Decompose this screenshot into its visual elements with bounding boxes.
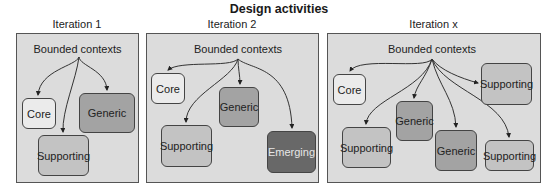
context-core: Core <box>333 74 366 105</box>
context-generic: Generic <box>219 87 259 127</box>
diagram-title: Design activities <box>0 2 558 16</box>
bounded-contexts-root: Bounded contexts <box>16 43 139 55</box>
context-supporting: Supporting <box>485 140 534 171</box>
context-core: Core <box>22 98 56 129</box>
bounded-contexts-root: Bounded contexts <box>146 43 330 55</box>
context-supporting: Supporting <box>481 63 532 105</box>
context-core: Core <box>151 73 185 104</box>
context-generic: Generic <box>396 101 433 141</box>
context-generic: Generic <box>79 93 135 133</box>
iteration-x-label: Iteration x <box>327 18 540 30</box>
iteration-2-label: Iteration 2 <box>146 18 318 30</box>
context-emerging: Emerging <box>267 131 316 173</box>
iteration-1-label: Iteration 1 <box>16 18 138 30</box>
context-supporting: Supporting <box>161 125 212 167</box>
context-supporting: Supporting <box>342 127 391 168</box>
context-supporting: Supporting <box>38 135 89 176</box>
bounded-contexts-root: Bounded contexts <box>376 43 488 55</box>
context-generic: Generic <box>435 130 477 171</box>
